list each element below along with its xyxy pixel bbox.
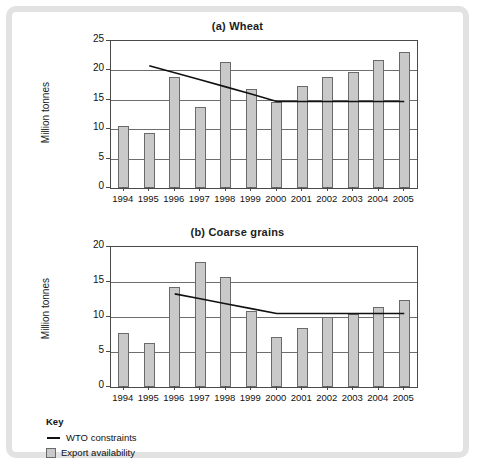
x-axis-tick-label: 2005 [388, 392, 418, 403]
y-axis-tick-label: 20 [82, 62, 104, 73]
legend-label-wto-constraints: WTO constraints [66, 432, 137, 443]
figure-inner: (a) Wheat Million tonnes 051015202519941… [12, 12, 463, 452]
x-axis-tick-mark [174, 386, 175, 390]
y-axis-tick-mark [106, 281, 110, 282]
y-axis-tick-label: 20 [82, 239, 104, 250]
wto-constraints-line [111, 41, 417, 188]
x-axis-tick-mark [225, 386, 226, 390]
y-axis-tick-mark [106, 99, 110, 100]
x-axis-tick-mark [327, 187, 328, 191]
y-axis-tick-label: 15 [82, 274, 104, 285]
x-axis-tick-mark [378, 386, 379, 390]
x-axis-tick-mark [301, 187, 302, 191]
y-axis-tick-label: 25 [82, 33, 104, 44]
plot-area-wheat [110, 40, 418, 189]
y-axis-tick-label: 5 [82, 151, 104, 162]
y-axis-label-coarse-grains: Million tonnes [40, 278, 51, 339]
x-axis-tick-mark [327, 386, 328, 390]
y-axis-tick-label: 10 [82, 309, 104, 320]
x-axis-tick-mark [378, 187, 379, 191]
x-axis-tick-mark [123, 187, 124, 191]
x-axis-tick-mark [199, 187, 200, 191]
x-axis-tick-mark [276, 187, 277, 191]
y-axis-tick-mark [106, 246, 110, 247]
x-axis-tick-mark [352, 386, 353, 390]
line-swatch-icon [47, 437, 60, 439]
x-axis-tick-mark [225, 187, 226, 191]
x-axis-tick-mark [403, 386, 404, 390]
chart-title-wheat: (a) Wheat [12, 20, 463, 32]
x-axis-tick-mark [301, 386, 302, 390]
plot-area-coarse-grains [110, 246, 418, 388]
x-axis-tick-mark [403, 187, 404, 191]
y-axis-tick-label: 0 [82, 379, 104, 390]
y-axis-tick-label: 15 [82, 92, 104, 103]
x-axis-tick-mark [250, 386, 251, 390]
y-axis-tick-mark [106, 316, 110, 317]
y-axis-tick-mark [106, 128, 110, 129]
x-axis-tick-mark [250, 187, 251, 191]
y-axis-tick-label: 5 [82, 344, 104, 355]
chart-coarse-grains: (b) Coarse grains Million tonnes 0510152… [12, 226, 463, 416]
x-axis-tick-mark [148, 386, 149, 390]
legend-label-export-availability: Export availability [61, 447, 135, 458]
legend-item-export-availability: Export availability [46, 446, 266, 459]
y-axis-label-wheat: Million tonnes [40, 82, 51, 143]
legend-title: Key [46, 416, 266, 427]
y-axis-tick-mark [106, 386, 110, 387]
figure-frame: (a) Wheat Million tonnes 051015202519941… [6, 6, 469, 458]
y-axis-tick-mark [106, 40, 110, 41]
y-axis-tick-label: 10 [82, 121, 104, 132]
y-axis-tick-mark [106, 158, 110, 159]
x-axis-tick-mark [276, 386, 277, 390]
bar-swatch-icon [46, 448, 56, 458]
x-axis-tick-label: 2005 [388, 193, 418, 204]
y-axis-tick-mark [106, 187, 110, 188]
x-axis-tick-mark [352, 187, 353, 191]
y-axis-tick-mark [106, 69, 110, 70]
wto-constraints-line [111, 247, 417, 387]
chart-wheat: (a) Wheat Million tonnes 051015202519941… [12, 20, 463, 226]
x-axis-tick-mark [148, 187, 149, 191]
y-axis-tick-label: 0 [82, 180, 104, 191]
chart-title-coarse-grains: (b) Coarse grains [12, 226, 463, 238]
x-axis-tick-mark [123, 386, 124, 390]
legend-item-wto-constraints: WTO constraints [46, 431, 266, 444]
x-axis-tick-mark [199, 386, 200, 390]
x-axis-tick-mark [174, 187, 175, 191]
y-axis-tick-mark [106, 351, 110, 352]
legend-key: Key WTO constraints Export availability [46, 416, 266, 461]
